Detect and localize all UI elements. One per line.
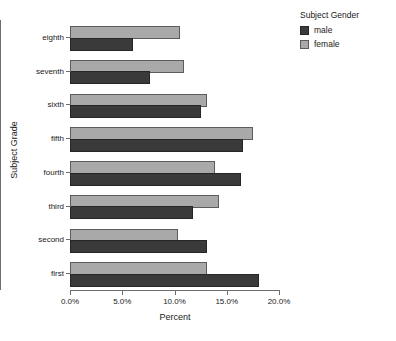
x-tick-10.0% bbox=[175, 290, 176, 295]
bar-chart: 0.0%5.0%10.0%15.0%20.0% eighthseventhsix… bbox=[0, 0, 396, 341]
x-tick-0.0% bbox=[70, 290, 71, 295]
y-tick-label-first: first bbox=[51, 269, 64, 278]
y-tick-seventh bbox=[66, 71, 71, 72]
bar-second-male bbox=[70, 240, 207, 253]
y-tick-sixth bbox=[66, 104, 71, 105]
legend-label-male: male bbox=[314, 25, 332, 35]
x-tick-5.0% bbox=[122, 290, 123, 295]
legend-item-female[interactable]: female bbox=[300, 39, 390, 49]
y-tick-fourth bbox=[66, 172, 71, 173]
legend: Subject Gender malefemale bbox=[300, 10, 390, 53]
y-tick-label-second: second bbox=[38, 235, 64, 244]
y-tick-label-sixth: sixth bbox=[48, 100, 64, 109]
legend-item-male[interactable]: male bbox=[300, 25, 390, 35]
bar-first-male bbox=[70, 274, 259, 287]
bar-fourth-male bbox=[70, 173, 241, 186]
y-tick-eighth bbox=[66, 37, 71, 38]
y-tick-first bbox=[66, 273, 71, 274]
bar-sixth-male bbox=[70, 105, 201, 118]
x-tick-label-0.0%: 0.0% bbox=[61, 297, 79, 306]
y-tick-label-fourth: fourth bbox=[44, 167, 64, 176]
legend-items: malefemale bbox=[300, 25, 390, 49]
y-tick-third bbox=[66, 206, 71, 207]
y-tick-label-eighth: eighth bbox=[42, 32, 64, 41]
legend-swatch-female bbox=[300, 40, 309, 49]
x-tick-label-10.0%: 10.0% bbox=[163, 297, 186, 306]
bar-eighth-male bbox=[70, 38, 133, 51]
x-tick-label-15.0%: 15.0% bbox=[215, 297, 238, 306]
x-tick-20.0% bbox=[279, 290, 280, 295]
y-axis-title: Subject Grade bbox=[9, 90, 19, 210]
bar-seventh-male bbox=[70, 71, 150, 84]
x-tick-label-20.0%: 20.0% bbox=[268, 297, 291, 306]
x-tick-label-5.0%: 5.0% bbox=[113, 297, 131, 306]
y-tick-label-seventh: seventh bbox=[36, 66, 64, 75]
y-tick-label-fifth: fifth bbox=[51, 134, 64, 143]
bar-third-male bbox=[70, 206, 193, 219]
legend-swatch-male bbox=[300, 26, 309, 35]
legend-title: Subject Gender bbox=[300, 10, 390, 20]
y-tick-fifth bbox=[66, 138, 71, 139]
y-tick-second bbox=[66, 239, 71, 240]
x-tick-15.0% bbox=[227, 290, 228, 295]
bar-fifth-male bbox=[70, 139, 243, 152]
y-tick-label-third: third bbox=[48, 201, 64, 210]
x-axis-title: Percent bbox=[70, 312, 280, 322]
legend-label-female: female bbox=[314, 39, 340, 49]
